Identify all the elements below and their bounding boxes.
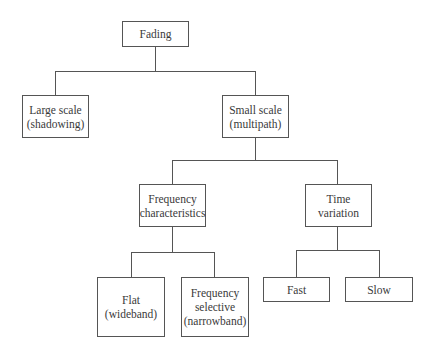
connector	[255, 71, 256, 95]
node-sublabel: (wideband)	[105, 307, 157, 321]
node-fading: Fading	[122, 21, 189, 47]
connector	[131, 252, 214, 253]
node-label: Frequency	[140, 192, 206, 206]
connector	[296, 250, 379, 251]
node-small-scale: Small scale(multipath)	[222, 95, 289, 138]
connector	[337, 226, 338, 250]
node-flat: Flat(wideband)	[97, 277, 165, 337]
connector	[172, 160, 173, 184]
connector	[214, 252, 215, 277]
node-sublabel: (narrowband)	[184, 314, 247, 328]
node-large-scale: Large scale(shadowing)	[22, 95, 89, 138]
connector	[172, 160, 337, 161]
node-time-variation: Timevariation	[305, 184, 372, 227]
connector	[55, 71, 255, 72]
connector	[296, 250, 297, 277]
connector	[337, 160, 338, 184]
node-label: Small scale	[229, 103, 282, 117]
node-label: Fading	[140, 27, 172, 41]
node-label: Frequency	[184, 286, 247, 300]
node-sublabel: (multipath)	[229, 117, 282, 131]
connector	[172, 226, 173, 252]
node-label: Slow	[367, 283, 391, 297]
connector	[155, 46, 156, 71]
node-label: Time	[318, 192, 359, 206]
node-fast: Fast	[263, 277, 330, 302]
node-label: Large scale	[27, 103, 85, 117]
node-sublabel: selective	[184, 300, 247, 314]
node-sublabel: characteristics	[140, 206, 206, 220]
node-label: Flat	[105, 293, 157, 307]
connector	[131, 252, 132, 277]
node-sublabel: (shadowing)	[27, 117, 85, 131]
connector	[255, 137, 256, 160]
node-slow: Slow	[345, 277, 413, 302]
node-frequency-characteristics: Frequencycharacteristics	[139, 184, 206, 227]
node-frequency-selective: Frequencyselective(narrowband)	[181, 277, 249, 337]
connector	[55, 71, 56, 95]
node-sublabel: variation	[318, 206, 359, 220]
node-label: Fast	[287, 283, 306, 297]
connector	[379, 250, 380, 277]
